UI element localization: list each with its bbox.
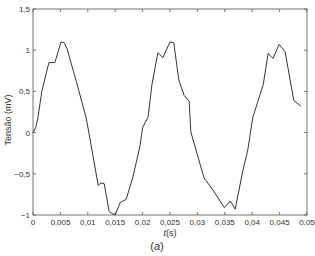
figure-caption: (a): [150, 240, 163, 252]
x-tick-labels: 00,0050,010,0150,020,0250,030,0350,040,0…: [31, 218, 315, 227]
x-tick-label: 0: [31, 218, 36, 227]
y-tick-label: 0,5: [19, 87, 31, 96]
x-tick-label: 0,025: [160, 218, 181, 227]
y-tick-label: 1,5: [19, 5, 31, 14]
x-tick-label: 0,04: [244, 218, 260, 227]
y-tick-label: 1: [26, 46, 31, 55]
y-axis-label: Tensão (mV): [3, 94, 13, 145]
x-tick-label: 0,02: [135, 218, 151, 227]
y-tick-label: −1: [21, 211, 31, 220]
x-axis-label: t(s): [163, 228, 176, 238]
x-tick-label: 0,01: [80, 218, 96, 227]
x-tick-label: 0,005: [50, 218, 71, 227]
y-tick-label: 0: [26, 129, 31, 138]
axis-ticks: [33, 9, 307, 215]
y-tick-label: −0,5: [14, 170, 30, 179]
voltage-chart: 00,0050,010,0150,020,0250,030,0350,040,0…: [0, 0, 315, 256]
x-tick-label: 0,05: [299, 218, 315, 227]
plot-frame: [33, 9, 307, 215]
x-tick-label: 0,045: [270, 218, 291, 227]
x-tick-label: 0,03: [190, 218, 206, 227]
voltage-line: [33, 42, 301, 215]
x-tick-label: 0,035: [215, 218, 236, 227]
x-tick-label: 0,015: [105, 218, 126, 227]
y-tick-labels: −1−0,500,511,5: [14, 5, 30, 220]
